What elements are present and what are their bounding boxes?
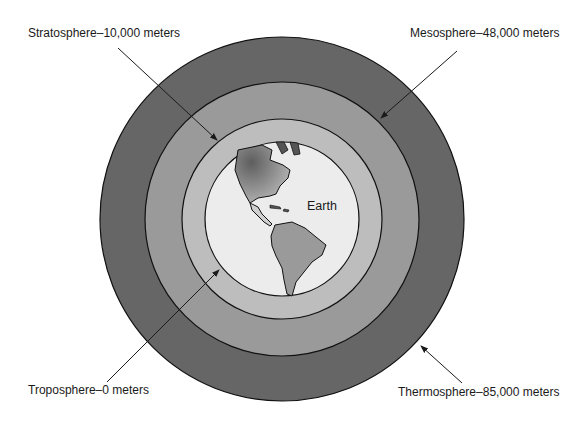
mesosphere-label: Mesosphere–48,000 meters bbox=[410, 26, 559, 40]
thermosphere-pointer bbox=[421, 346, 462, 383]
earth-globe bbox=[205, 142, 359, 296]
troposphere-label: Troposphere–0 meters bbox=[28, 383, 149, 397]
atmosphere-diagram bbox=[0, 0, 585, 428]
earth-label: Earth bbox=[307, 199, 337, 213]
thermosphere-label: Thermosphere–85,000 meters bbox=[398, 385, 559, 399]
stratosphere-label: Stratosphere–10,000 meters bbox=[28, 26, 180, 40]
